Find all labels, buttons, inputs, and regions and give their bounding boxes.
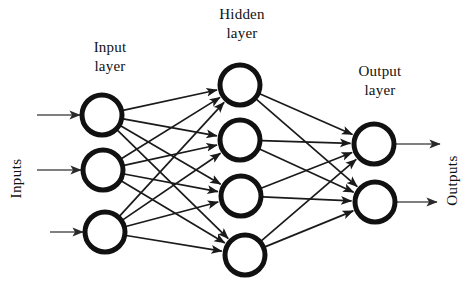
output-neuron-2 [355,182,395,222]
connection-i3-h4 [126,235,222,251]
hidden-neuron-3 [221,176,261,216]
connection-h4-o2 [265,211,353,247]
connection-i2-h3 [124,174,218,192]
edges-input-to-hidden [117,90,228,251]
input-layer-label: Input layer [60,38,160,76]
inputs-axis-label: Inputs [8,149,25,209]
hidden-neuron-4 [225,235,265,275]
input-neuron-1 [82,95,122,135]
connection-i2-h1 [121,97,220,158]
outputs-axis-label: Outputs [444,145,461,217]
connection-i3-h1 [120,102,225,216]
hidden-neuron-1 [220,65,260,105]
edges-hidden-to-output [256,94,357,247]
neural-network-diagram: Input layer Hidden layer Output layer In… [0,0,476,294]
output-neuron-1 [354,124,394,164]
hidden-layer-label: Hidden layer [192,5,292,43]
output-layer-label: Output layer [330,62,430,100]
connection-i1-h2 [123,119,217,136]
hidden-neuron-2 [220,120,260,160]
connection-h3-o2 [262,197,351,201]
input-neuron-3 [85,212,125,252]
input-neuron-2 [83,150,123,190]
